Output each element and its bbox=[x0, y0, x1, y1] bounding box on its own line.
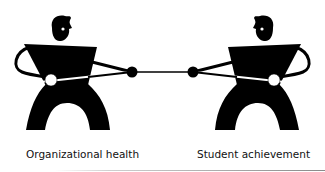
tug-of-war-illustration bbox=[0, 0, 325, 172]
left-figure-icon bbox=[16, 16, 138, 131]
left-figure-label: Organizational health bbox=[26, 148, 139, 160]
right-figure-icon bbox=[188, 16, 310, 131]
right-figure-label: Student achievement bbox=[197, 148, 310, 160]
bottom-rule bbox=[55, 170, 325, 171]
tug-of-war-diagram: Organizational health Student achievemen… bbox=[0, 0, 325, 172]
